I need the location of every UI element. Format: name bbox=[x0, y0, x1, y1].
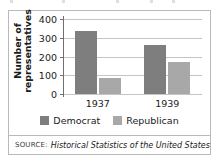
bar-republican-1937 bbox=[99, 78, 121, 95]
legend-item-republican: Republican bbox=[113, 115, 178, 126]
legend-swatch-republican bbox=[113, 116, 122, 125]
chart-legend: DemocratRepublican bbox=[9, 115, 210, 126]
y-tick-mark bbox=[60, 94, 64, 95]
source-title: Historical Statistics of the United Stat… bbox=[51, 141, 210, 150]
source-bar: SOURCE: Historical Statistics of the Uni… bbox=[9, 135, 210, 154]
x-tick-label: 1939 bbox=[155, 98, 179, 109]
legend-swatch-democrat bbox=[40, 116, 49, 125]
x-tick-label: 1937 bbox=[86, 98, 110, 109]
y-tick-label: 100 bbox=[39, 70, 57, 81]
y-tick-mark bbox=[60, 19, 64, 20]
legend-item-democrat: Democrat bbox=[40, 115, 100, 126]
y-tick-label: 300 bbox=[39, 32, 57, 43]
cropped-page-artifact bbox=[0, 0, 219, 6]
chart-figure: Number of representatives 0100200300400 … bbox=[8, 10, 211, 155]
source-label: SOURCE: bbox=[15, 141, 48, 149]
bar-republican-1939 bbox=[168, 62, 190, 94]
gridline bbox=[63, 19, 202, 20]
legend-label-democrat: Democrat bbox=[53, 115, 100, 126]
plot-inner: 0100200300400 19371939 bbox=[63, 19, 202, 94]
bar-chart: Number of representatives 0100200300400 … bbox=[9, 11, 210, 123]
y-tick-label: 200 bbox=[39, 51, 57, 62]
plot-area: 0100200300400 19371939 bbox=[63, 19, 202, 94]
legend-label-republican: Republican bbox=[126, 115, 178, 126]
bar-democrat-1937 bbox=[75, 31, 97, 94]
bar-democrat-1939 bbox=[144, 45, 166, 94]
y-tick-mark bbox=[60, 38, 64, 39]
y-tick-mark bbox=[60, 57, 64, 58]
y-tick-mark bbox=[60, 75, 64, 76]
y-tick-label: 400 bbox=[39, 14, 57, 25]
y-tick-label: 0 bbox=[51, 89, 57, 100]
gridline bbox=[63, 94, 202, 95]
y-axis-title: Number of representatives bbox=[9, 10, 37, 92]
